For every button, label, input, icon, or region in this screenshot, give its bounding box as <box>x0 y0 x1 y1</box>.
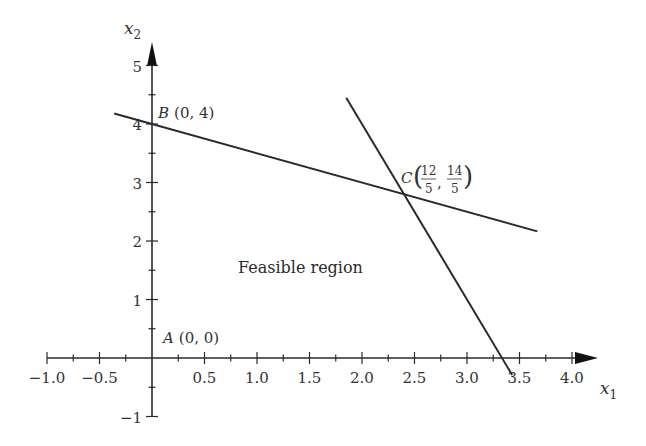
point-a-label: A(0, 0) <box>161 329 219 347</box>
svg-text:14: 14 <box>447 164 463 178</box>
constraint-lines <box>114 98 537 375</box>
constraint-line-1 <box>114 113 537 231</box>
feasible-region-label: Feasible region <box>238 258 363 277</box>
constraint-line-2 <box>346 98 512 375</box>
x-tick-label: −0.5 <box>81 369 117 387</box>
x-tick-label: 1.5 <box>298 369 322 387</box>
x-tick-label: 3.0 <box>455 369 479 387</box>
x-tick-label: 0.5 <box>193 369 217 387</box>
x-axis-title: x1 <box>600 378 617 402</box>
point-c-label: C ( 12 5 , 14 5 ) <box>401 161 473 196</box>
x-tick-label: −1.0 <box>29 369 65 387</box>
x-tick-label: 2.5 <box>403 369 427 387</box>
y-tick-label: 5 <box>132 58 142 76</box>
ticks: −1.0−0.50.51.01.52.02.53.03.54.0−112345 <box>29 58 584 427</box>
axes <box>47 42 598 417</box>
svg-text:5: 5 <box>451 182 459 196</box>
y-axis-arrow-icon <box>147 42 157 66</box>
svg-text:12: 12 <box>421 164 436 178</box>
x-tick-label: 2.0 <box>350 369 374 387</box>
x-tick-label: 4.0 <box>560 369 584 387</box>
y-tick-label: 3 <box>132 175 142 193</box>
x-tick-label: 1.0 <box>245 369 269 387</box>
x-axis-arrow-icon <box>575 352 598 364</box>
y-tick-label: −1 <box>120 409 142 427</box>
y-axis-title: x2 <box>124 18 141 42</box>
y-tick-label: 2 <box>132 233 142 251</box>
point-b-label: B(0, 4) <box>157 104 214 122</box>
svg-text:5: 5 <box>425 182 433 196</box>
y-tick-label: 1 <box>132 292 142 310</box>
lp-feasible-region-chart: −1.0−0.50.51.01.52.02.53.03.54.0−112345 … <box>0 0 646 446</box>
svg-text:C: C <box>401 169 413 187</box>
paren-close: ) <box>463 161 473 191</box>
comma: , <box>437 174 442 192</box>
